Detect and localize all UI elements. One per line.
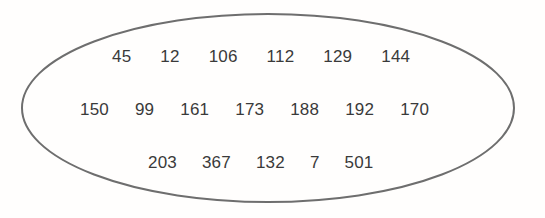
set-element: 99 [135, 101, 154, 118]
set-diagram: 45 12 106 112 129 144 150 99 161 173 188… [0, 0, 545, 218]
set-element: 150 [80, 101, 109, 118]
set-element: 132 [256, 154, 285, 171]
number-row: 150 99 161 173 188 192 170 [80, 101, 429, 118]
set-element: 367 [202, 154, 231, 171]
set-element: 12 [160, 48, 179, 65]
set-element: 45 [112, 48, 131, 65]
set-element: 144 [381, 48, 410, 65]
set-element: 129 [323, 48, 352, 65]
set-element: 161 [180, 101, 209, 118]
set-element: 173 [235, 101, 264, 118]
number-row: 203 367 132 7 501 [148, 154, 374, 171]
number-grid: 45 12 106 112 129 144 150 99 161 173 188… [0, 0, 545, 218]
set-element: 170 [400, 101, 429, 118]
number-row: 45 12 106 112 129 144 [112, 48, 410, 65]
set-element: 192 [345, 101, 374, 118]
set-element: 7 [310, 154, 320, 171]
set-element: 501 [345, 154, 374, 171]
set-element: 203 [148, 154, 177, 171]
set-element: 188 [290, 101, 319, 118]
set-element: 112 [267, 48, 295, 65]
set-element: 106 [209, 48, 238, 65]
